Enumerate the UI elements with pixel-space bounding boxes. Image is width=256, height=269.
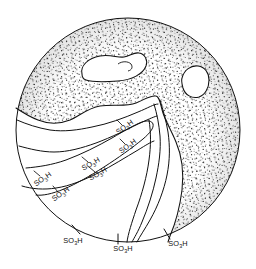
so3h-label: SO3H — [113, 244, 132, 254]
so3h-label: SO3H — [168, 239, 187, 249]
circular-stipple-diagram: SO3HSO3HSO3HSO3HSO3HSO3HSO3HSO3HSO3H — [0, 0, 256, 269]
figure-root: SO3HSO3HSO3HSO3HSO3HSO3HSO3HSO3HSO3H — [0, 0, 256, 269]
island-right — [182, 66, 209, 98]
stippled-matrix-region — [0, 0, 256, 269]
so3h-label: SO3H — [63, 236, 82, 246]
